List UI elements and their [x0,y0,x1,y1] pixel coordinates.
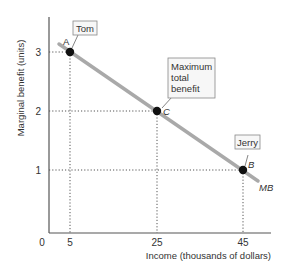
x-tick-0: 0 [39,237,45,248]
point-a-label: A [63,36,70,47]
tom-label: Tom [76,23,94,34]
chart: Tom Maximum total benefit Jerry A C B MB… [0,0,291,270]
jerry-label: Jerry [237,137,258,148]
point-c [153,107,161,115]
callout-leaders [72,35,248,166]
x-tick-25: 25 [151,237,163,248]
point-b [239,166,247,174]
x-tick-45: 45 [237,237,249,248]
axes [49,17,271,233]
max-benefit-label-line1: Maximum [171,61,212,72]
tom-leader [72,35,78,48]
y-tick-3: 3 [35,47,41,58]
point-c-label: C [163,106,170,117]
point-b-label: B [248,159,255,170]
mb-curve-label: MB [259,182,274,193]
y-tick-1: 1 [35,165,41,176]
x-axis-title: Income (thousands of dollars) [146,250,271,261]
max-benefit-label-line2: total [171,72,189,83]
max-benefit-label-line3: benefit [171,83,200,94]
x-tick-5: 5 [67,237,73,248]
y-axis-title: Marginal benefit (units) [15,40,26,137]
y-tick-2: 2 [35,106,41,117]
point-a [66,48,74,56]
